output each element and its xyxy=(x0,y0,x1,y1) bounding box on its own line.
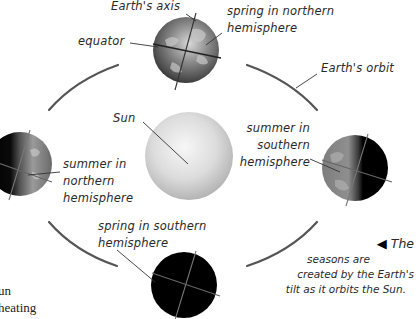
body-text-fragment-1: un xyxy=(0,283,11,298)
label-summer-southern-line1: summer in xyxy=(240,121,310,135)
label-summer-southern-line3: hemisphere xyxy=(230,155,310,169)
earth-summer-northern xyxy=(0,130,52,200)
label-earths-orbit: Earth's orbit xyxy=(321,61,394,75)
label-sun: Sun xyxy=(113,111,135,125)
earth-spring-southern xyxy=(151,251,220,319)
orbit-arc-top-right xyxy=(247,65,317,110)
leader-earths-orbit xyxy=(296,74,317,88)
sun xyxy=(145,112,233,200)
label-spring-northern-line1: spring in northern xyxy=(227,4,334,18)
label-spring-southern-line2: hemisphere xyxy=(98,236,168,250)
orbit-arc-top-left xyxy=(49,65,118,110)
caption: ◀The seasons are created by the Earth's … xyxy=(250,236,414,297)
seasons-diagram: Earth's axis equator spring in northern … xyxy=(0,0,420,319)
leader-spring-southern xyxy=(117,250,155,282)
body-text-fragment-2: heating xyxy=(0,300,36,315)
earth-spring-northern xyxy=(153,13,221,90)
label-equator: equator xyxy=(78,34,124,48)
label-summer-northern-line1: summer in xyxy=(63,157,126,171)
label-summer-southern-line2: southern xyxy=(240,138,310,152)
label-summer-northern-line2: northern xyxy=(63,174,115,188)
caption-line4: tilt as it orbits the Sun. xyxy=(250,282,414,297)
label-summer-northern-line3: hemisphere xyxy=(63,191,133,205)
label-spring-northern-line2: hemisphere xyxy=(227,21,297,35)
earth-summer-southern xyxy=(322,134,392,206)
label-earths-axis: Earth's axis xyxy=(111,0,180,13)
pointer-triangle-icon: ◀ xyxy=(377,236,387,251)
caption-line2: seasons are xyxy=(250,252,414,267)
caption-line3: created by the Earth's xyxy=(250,267,414,282)
caption-line1: ◀The xyxy=(250,236,414,252)
label-spring-southern-line1: spring in southern xyxy=(98,219,206,233)
